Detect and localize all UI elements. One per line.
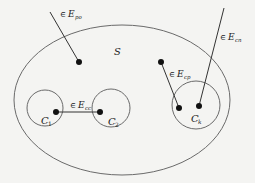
edge-po-label: ∈ E po — [60, 9, 83, 21]
svg-text:∈: ∈ — [220, 33, 226, 42]
svg-text:2: 2 — [115, 121, 119, 128]
svg-text:E: E — [227, 32, 235, 42]
edge-cp-label: ∈ E cp — [169, 69, 191, 81]
node-c1 — [53, 109, 59, 115]
svg-text:cc: cc — [85, 105, 91, 111]
svg-text:E: E — [67, 9, 75, 19]
node-k2 — [196, 103, 202, 109]
svg-text:po: po — [75, 14, 83, 21]
cluster-c1-label: C 1 — [41, 115, 52, 127]
edge-cc-label: ∈ E cc — [70, 100, 91, 111]
node-q — [158, 59, 164, 65]
set-s-ellipse — [14, 25, 230, 175]
node-k1 — [176, 105, 182, 111]
svg-text:∈: ∈ — [70, 101, 76, 110]
svg-text:cn: cn — [235, 37, 242, 43]
svg-text:∈: ∈ — [169, 70, 175, 79]
svg-text:k: k — [198, 118, 202, 125]
svg-text:E: E — [77, 100, 85, 110]
edge-cn — [199, 8, 224, 106]
node-p — [76, 59, 82, 65]
svg-text:cp: cp — [184, 74, 191, 81]
set-s-label: S — [114, 46, 121, 57]
cluster-ck-label: C k — [191, 113, 202, 125]
svg-text:∈: ∈ — [60, 10, 66, 19]
cluster-c2-label: C 2 — [108, 116, 119, 128]
svg-text:E: E — [176, 69, 184, 79]
svg-text:1: 1 — [48, 120, 52, 127]
diagram-canvas: S C 1 C 2 C k ∈ E po ∈ E cp ∈ E cc ∈ E c… — [0, 0, 255, 183]
node-c2 — [97, 109, 103, 115]
edge-cn-label: ∈ E cn — [220, 32, 242, 43]
